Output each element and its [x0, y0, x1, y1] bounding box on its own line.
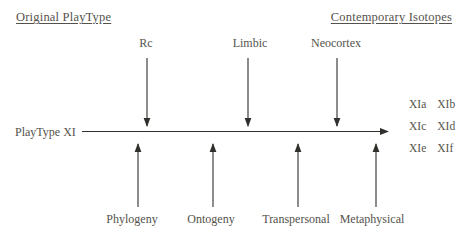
- axis-label-playtype-xi: PlayType XI: [15, 125, 76, 140]
- diagram-arrows: [0, 0, 467, 236]
- isotope-xic: XIc: [409, 120, 426, 132]
- isotope-xia: XIa: [409, 98, 426, 110]
- label-phylogeny: Phylogeny: [106, 212, 157, 227]
- label-ontogeny: Ontogeny: [187, 212, 234, 227]
- label-metaphysical: Metaphysical: [340, 212, 405, 227]
- isotope-xie: XIe: [409, 142, 426, 154]
- isotope-row: XIa XIb: [409, 98, 455, 110]
- playtype-diagram: Original PlayType Contemporary Isotopes …: [0, 0, 467, 236]
- isotope-xid: XId: [437, 120, 455, 132]
- isotope-row: XIe XIf: [409, 142, 455, 154]
- isotope-table: XIa XIb XIc XId XIe XIf: [409, 98, 455, 154]
- isotope-row: XIc XId: [409, 120, 455, 132]
- isotope-xif: XIf: [437, 142, 454, 154]
- label-transpersonal: Transpersonal: [262, 212, 330, 227]
- isotope-xib: XIb: [437, 98, 455, 110]
